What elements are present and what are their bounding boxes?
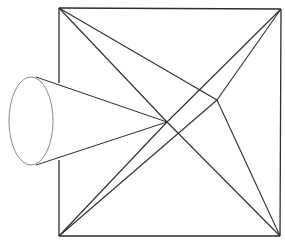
line-bl-to-p1 bbox=[59, 122, 167, 236]
line-tr-to-p2 bbox=[217, 9, 281, 100]
corner-to-point-lines bbox=[59, 8, 281, 236]
cone bbox=[9, 77, 167, 165]
geometry-diagram bbox=[0, 0, 285, 244]
cone-body bbox=[36, 77, 167, 165]
square-right-edge bbox=[280, 9, 281, 236]
line-br-to-p1 bbox=[167, 122, 280, 236]
square-top-edge bbox=[59, 8, 281, 9]
line-br-to-p2 bbox=[217, 100, 280, 236]
line-tl-to-p1 bbox=[59, 8, 167, 122]
cone-top-line bbox=[36, 77, 167, 122]
cone-base-ellipse bbox=[9, 77, 53, 165]
line-tl-to-p2 bbox=[59, 8, 217, 100]
line-tr-to-p1 bbox=[167, 9, 281, 122]
line-bl-to-p2 bbox=[59, 100, 217, 236]
